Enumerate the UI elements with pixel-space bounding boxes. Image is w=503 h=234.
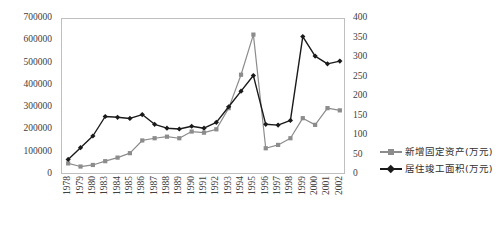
y-right-tick-150: 150 (353, 111, 367, 121)
x-axis-tick-1978: 1978 (62, 176, 72, 195)
x-axis-tick-1997: 1997 (272, 176, 282, 195)
data-point-0-2001 (325, 106, 329, 110)
y-left-tick-200000: 200000 (24, 124, 53, 134)
data-point-1-1989 (177, 126, 182, 131)
x-axis-tick-1996: 1996 (260, 176, 270, 195)
data-point-0-2002 (338, 108, 342, 112)
x-axis-tick-1987: 1987 (149, 176, 159, 195)
data-point-1-1990 (189, 124, 194, 129)
legend-label-1: 居住竣工面积(万元) (405, 163, 492, 174)
data-point-0-1985 (128, 151, 132, 155)
x-axis-tick-1986: 1986 (136, 176, 146, 195)
x-axis-tick-1991: 1991 (198, 176, 208, 195)
data-point-0-1980 (91, 163, 95, 167)
data-point-0-1997 (276, 143, 280, 147)
x-axis-tick-1998: 1998 (284, 176, 294, 195)
x-axis-tick-2001: 2001 (321, 176, 331, 195)
data-point-1-1997 (275, 122, 280, 127)
y-left-tick-400000: 400000 (24, 80, 53, 90)
data-point-0-1994 (239, 73, 243, 77)
data-point-0-1992 (214, 127, 218, 131)
plot-series-svg (62, 19, 346, 175)
x-axis-tick-1985: 1985 (124, 176, 134, 195)
x-axis-tick-1992: 1992 (210, 176, 220, 195)
data-point-0-1988 (165, 135, 169, 139)
data-point-0-1995 (251, 33, 255, 37)
y-right-tick-300: 300 (353, 52, 367, 62)
series-line-1 (68, 37, 340, 160)
data-point-0-1989 (177, 136, 181, 140)
data-point-0-1999 (301, 116, 305, 120)
data-point-0-1979 (78, 164, 82, 168)
y-left-tick-0: 0 (47, 169, 52, 179)
legend-swatch-diamond-icon (380, 164, 402, 174)
y-right-tick-200: 200 (353, 91, 367, 101)
data-point-0-1990 (190, 129, 194, 133)
x-axis-tick-1988: 1988 (161, 176, 171, 195)
data-point-1-1998 (288, 118, 293, 123)
chart-legend: 新增固定资产(万元)居住竣工面积(万元) (380, 143, 503, 177)
data-point-0-1984 (115, 156, 119, 160)
series-line-0 (68, 35, 340, 167)
x-axis-tick-2002: 2002 (334, 176, 344, 195)
legend-swatch-square-icon (380, 147, 402, 157)
x-axis-tick-1980: 1980 (87, 176, 97, 195)
y-left-tick-500000: 500000 (24, 58, 53, 68)
y-left-tick-100000: 100000 (24, 147, 53, 157)
legend-item-0[interactable]: 新增固定资产(万元) (380, 143, 503, 160)
x-axis-tick-1989: 1989 (173, 176, 183, 195)
y-right-tick-0: 0 (353, 169, 358, 179)
x-axis-tick-1990: 1990 (186, 176, 196, 195)
x-axis-tick-1999: 1999 (297, 176, 307, 195)
y-left-tick-300000: 300000 (24, 102, 53, 112)
legend-item-1[interactable]: 居住竣工面积(万元) (380, 160, 503, 177)
plot-area (61, 18, 345, 174)
data-point-0-1983 (103, 159, 107, 163)
data-point-0-2000 (313, 123, 317, 127)
y-right-tick-250: 250 (353, 72, 367, 82)
data-point-1-1984 (115, 115, 120, 120)
x-axis-tick-1994: 1994 (235, 176, 245, 195)
x-axis: 1978197919801983198419851986198719881989… (61, 176, 345, 222)
data-point-0-1987 (153, 136, 157, 140)
x-axis-tick-1983: 1983 (99, 176, 109, 195)
y-right-tick-400: 400 (353, 13, 367, 23)
data-point-0-1996 (264, 146, 268, 150)
chart-container: 0100000200000300000400000500000600000700… (0, 0, 503, 234)
data-point-1-1988 (164, 126, 169, 131)
x-axis-tick-1993: 1993 (223, 176, 233, 195)
x-axis-tick-1979: 1979 (75, 176, 85, 195)
x-axis-tick-2000: 2000 (309, 176, 319, 195)
y-left-tick-700000: 700000 (24, 13, 53, 23)
data-point-0-1991 (202, 131, 206, 135)
x-axis-tick-1984: 1984 (112, 176, 122, 195)
data-point-1-1991 (201, 126, 206, 131)
legend-label-0: 新增固定资产(万元) (405, 146, 492, 157)
data-point-0-1986 (140, 138, 144, 142)
data-point-0-1998 (288, 136, 292, 140)
data-point-1-2002 (337, 59, 342, 64)
y-left-tick-600000: 600000 (24, 35, 53, 45)
x-axis-tick-1995: 1995 (247, 176, 257, 195)
y-right-tick-100: 100 (353, 130, 367, 140)
data-point-1-1985 (127, 116, 132, 121)
y-right-tick-50: 50 (353, 150, 363, 160)
y-right-tick-350: 350 (353, 33, 367, 43)
